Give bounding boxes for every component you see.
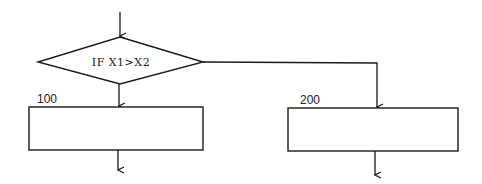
process-block-100: 100 — [29, 92, 203, 150]
process-block-200: 200 — [288, 93, 458, 151]
flowchart: IF X1>X2 100 200 — [0, 0, 482, 184]
false-branch-connector — [203, 62, 377, 107]
decision-condition: IF X1>X2 — [92, 56, 150, 69]
process-box-200 — [288, 108, 458, 151]
block-label-200: 200 — [300, 93, 320, 107]
decision-node: IF X1>X2 — [38, 37, 203, 84]
block-label-100: 100 — [37, 92, 57, 106]
process-box-100 — [29, 107, 203, 150]
